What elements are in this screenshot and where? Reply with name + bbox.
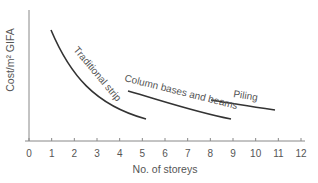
x-tick-label: 10 xyxy=(250,148,262,159)
x-tick-label: 1 xyxy=(49,148,55,159)
x-tick-label: 8 xyxy=(208,148,214,159)
x-tick-label: 3 xyxy=(94,148,100,159)
x-tick-label: 6 xyxy=(162,148,168,159)
chart: 0123456789101112 No. of storeys Cost/m² … xyxy=(0,0,318,183)
x-tick-labels: 0123456789101112 xyxy=(26,148,307,159)
x-tick-label: 5 xyxy=(140,148,146,159)
y-axis-label: Cost/m² GIFA xyxy=(4,28,16,92)
x-tick-label: 7 xyxy=(185,148,191,159)
x-tick-label: 2 xyxy=(72,148,78,159)
x-axis-label: No. of storeys xyxy=(133,163,198,175)
x-tick-label: 9 xyxy=(230,148,236,159)
x-tick-label: 11 xyxy=(273,148,284,159)
x-tick-label: 0 xyxy=(26,148,32,159)
traditional-strip-label: Traditional strip xyxy=(71,44,123,103)
x-tick-label: 4 xyxy=(117,148,123,159)
x-tick-label: 12 xyxy=(295,148,307,159)
column-bases-label: Column bases and beams xyxy=(124,72,239,111)
